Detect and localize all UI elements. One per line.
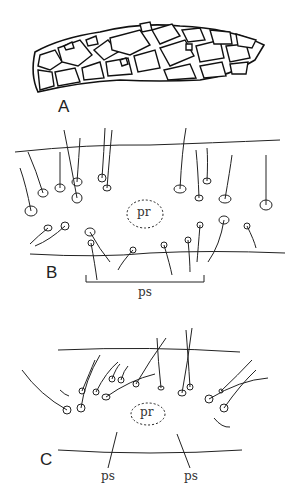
segment-boundary-lower <box>58 450 242 453</box>
ps-label-c-left: ps <box>101 469 115 483</box>
figure-drawing <box>0 0 299 502</box>
panel-a-case <box>33 22 264 92</box>
ps-label-b: ps <box>138 285 152 299</box>
segment-boundary-upper <box>15 140 280 152</box>
segment-boundary-lower <box>30 252 285 256</box>
panel-label-b: B <box>46 263 57 283</box>
panel-label-a: A <box>58 97 69 117</box>
pr-label-c: pr <box>140 405 153 419</box>
ps-arrow-right <box>177 434 190 468</box>
panel-c-drawing <box>22 328 268 468</box>
panel-label-c: C <box>40 450 52 470</box>
ps-bracket <box>86 275 204 282</box>
ps-label-c-right: ps <box>184 469 198 483</box>
pr-label-b: pr <box>137 205 150 219</box>
ps-arrow-left <box>108 432 117 468</box>
segment-boundary-upper <box>58 348 240 352</box>
